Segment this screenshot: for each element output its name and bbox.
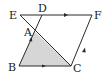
label-b: B xyxy=(8,61,16,74)
label-f: F xyxy=(94,9,102,22)
parallel-arrow-ef-icon xyxy=(64,13,68,17)
label-c: C xyxy=(73,62,81,75)
label-e: E xyxy=(9,9,17,22)
parallel-arrow-cf-icon xyxy=(82,48,86,53)
geometry-diagram: E D F A B C xyxy=(0,0,109,81)
segment-fc xyxy=(71,15,92,66)
label-a: A xyxy=(23,26,33,39)
label-d: D xyxy=(38,2,47,15)
